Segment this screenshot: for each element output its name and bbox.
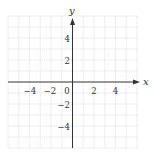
x-axis-label: x — [143, 76, 149, 87]
y-tick-label: 2 — [65, 56, 70, 66]
x-tick-label: 0 — [64, 86, 69, 96]
x-tick-label: 4 — [113, 86, 118, 96]
y-tick-label: −4 — [57, 122, 70, 132]
y-axis-label: y — [68, 5, 75, 16]
coordinate-plane: x y −4 −2 0 2 4 4 2 −2 −4 — [0, 0, 154, 159]
x-tick-label: −4 — [24, 86, 37, 96]
y-tick-label: 4 — [65, 34, 70, 44]
y-tick-label: −2 — [57, 100, 70, 110]
y-axis-arrow-icon — [70, 18, 75, 25]
x-tick-label: 2 — [91, 86, 96, 96]
x-tick-label: −2 — [44, 86, 57, 96]
x-axis-arrow-icon — [133, 80, 140, 85]
